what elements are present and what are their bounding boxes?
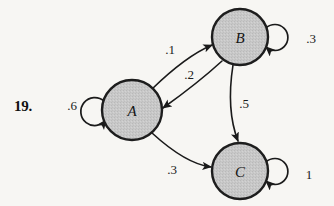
self-loop-weight-b: .3 bbox=[306, 31, 316, 46]
diagram-page: 19. bbox=[0, 0, 334, 206]
state-transition-diagram: A B C .1 .2 .5 .3 .6 .3 1 bbox=[0, 0, 334, 206]
edge-weight-a-to-b: .1 bbox=[165, 42, 175, 57]
node-a-label: A bbox=[126, 103, 137, 119]
node-a[interactable]: A bbox=[102, 80, 162, 140]
node-c-label: C bbox=[235, 164, 246, 180]
edge-b-to-c bbox=[230, 65, 238, 141]
node-b-label: B bbox=[235, 30, 244, 46]
self-loop-weight-c: 1 bbox=[306, 167, 313, 182]
node-c[interactable]: C bbox=[212, 143, 268, 199]
self-loop-b bbox=[266, 25, 288, 51]
node-b[interactable]: B bbox=[212, 9, 268, 65]
edge-a-to-b bbox=[152, 45, 212, 89]
edge-a-to-c bbox=[152, 133, 211, 167]
self-loop-weight-a: .6 bbox=[67, 98, 77, 113]
edge-weight-b-to-c: .5 bbox=[239, 96, 249, 111]
edge-weight-b-to-a: .2 bbox=[184, 67, 194, 82]
self-loop-c bbox=[266, 159, 288, 185]
edge-weight-a-to-c: .3 bbox=[167, 162, 177, 177]
